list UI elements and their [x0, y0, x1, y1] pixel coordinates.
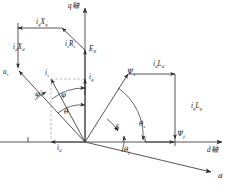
- alpha-axis-line: [85, 142, 211, 172]
- id-label: id: [57, 145, 62, 152]
- id-Ld-label: idLd: [153, 61, 164, 68]
- psi-f-label: Ψf: [177, 130, 185, 138]
- phasor-diagram: q轴 d轴 α iqXq idXd isRs E0 us is iq id φ′…: [0, 0, 233, 195]
- id-Xd-label: idXd: [13, 44, 24, 51]
- is-label: is: [45, 70, 49, 77]
- E0-label: E0: [89, 46, 96, 53]
- phi-prime-label: φ′: [35, 90, 42, 98]
- psi-s-label: Ψs: [127, 68, 135, 76]
- q-axis-label: q轴: [68, 3, 79, 10]
- psi-s-vector: [85, 74, 128, 142]
- us-label: us: [3, 69, 9, 76]
- d-axis-label: d轴: [207, 147, 218, 154]
- alpha-axis-label: α: [218, 172, 223, 180]
- theta-label: θ: [64, 108, 68, 116]
- theta-arc: [58, 105, 85, 113]
- iq-Xq-label: iqXq: [36, 19, 47, 26]
- theta-s-arc: [118, 88, 143, 140]
- iq-label: iq: [89, 74, 94, 81]
- delta-label: δ: [115, 124, 119, 132]
- is-Rs-label: isRs: [65, 41, 75, 48]
- theta-f-label: θf: [124, 146, 130, 154]
- iq-Lq-label: iqLq: [191, 103, 202, 110]
- phi-label: φ: [61, 91, 66, 99]
- theta-s-label: θs: [139, 120, 145, 128]
